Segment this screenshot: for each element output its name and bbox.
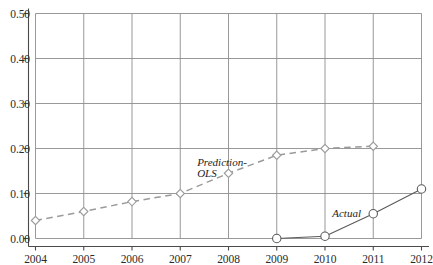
x-axis-tick-label: 2007 <box>169 253 192 265</box>
series-label-prediction-ols: Prediction- OLS <box>197 157 247 181</box>
x-axis-tick-label: 2012 <box>410 253 433 265</box>
x-axis-tick-label: 2008 <box>217 253 240 265</box>
x-axis-tick-label: 2009 <box>265 253 288 265</box>
x-axis-tick-label: 2010 <box>314 253 337 265</box>
x-axis-tick-label: 2004 <box>24 253 47 265</box>
x-axis-tick-label: 2006 <box>121 253 144 265</box>
x-axis-tick-label: 2005 <box>72 253 95 265</box>
series-label-actual: Actual <box>332 208 361 220</box>
x-axis-tick-label: 2011 <box>362 253 384 265</box>
